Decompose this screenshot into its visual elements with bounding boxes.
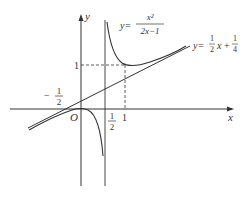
svg-text:1: 1	[57, 86, 62, 96]
svg-text:−: −	[44, 90, 50, 101]
y-tick-one: 1	[74, 60, 79, 71]
curve-equation-label: y= x² 2x−1	[119, 12, 164, 36]
svg-text:2: 2	[57, 97, 62, 107]
svg-text:+: +	[224, 40, 230, 51]
svg-text:2: 2	[110, 122, 115, 132]
x-axis	[10, 107, 234, 112]
svg-text:x: x	[216, 40, 222, 51]
svg-text:y=: y=	[192, 40, 204, 51]
asymptote-equation-label: y= 1 2 x + 1 4	[192, 34, 238, 54]
x-tick-neg-half: − 1 2	[44, 86, 63, 107]
svg-text:1: 1	[210, 34, 214, 43]
svg-text:y=: y=	[119, 20, 131, 31]
svg-text:4: 4	[233, 45, 237, 54]
x-tick-one: 1	[122, 112, 127, 123]
y-axis-arrow-icon	[79, 14, 84, 21]
guide-lines	[81, 65, 125, 109]
x-tick-half: 1 2	[108, 111, 116, 132]
y-axis-label: y	[84, 10, 90, 22]
origin-label: O	[70, 111, 78, 123]
curve-left-branch	[29, 109, 103, 157]
function-graph-figure: y x O 1 1 1 2 − 1 2 y= x² 2x−1 y= 1 2 x …	[0, 0, 245, 205]
x-axis-label: x	[227, 111, 233, 123]
svg-text:1: 1	[110, 111, 115, 121]
svg-text:2: 2	[210, 45, 214, 54]
svg-text:1: 1	[233, 34, 237, 43]
svg-text:2x−1: 2x−1	[140, 26, 159, 36]
svg-text:x²: x²	[146, 12, 154, 22]
